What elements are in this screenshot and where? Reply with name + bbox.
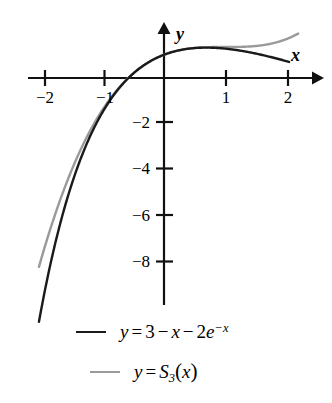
series-curve-approximation (39, 34, 298, 267)
legend-approx-fn: S (159, 361, 169, 382)
y-axis-label: y (176, 25, 184, 43)
legend-exact-op1: − (158, 321, 169, 342)
legend-label-exact: y=3−x−2e−x (120, 321, 229, 343)
y-tick-label--2: −2 (132, 114, 150, 131)
legend-exact-eq: = (131, 321, 142, 342)
x-axis (28, 72, 324, 85)
legend-exact-lhs: y (120, 321, 128, 342)
legend-exact-term2: x (171, 321, 179, 342)
legend-approx-lhs: y (134, 361, 142, 382)
x-tick-label-2: 2 (284, 89, 293, 106)
legend-swatch-approx (90, 371, 120, 373)
figure-container: −2 −1 1 2 −2 −4 −6 −8 x y y=3−x−2e−x y=S… (0, 0, 332, 403)
legend-approx-open-paren: ( (175, 359, 182, 383)
y-tick-label--6: −6 (132, 207, 150, 224)
legend-swatch-exact (76, 331, 106, 333)
x-axis-label: x (291, 46, 300, 64)
legend: y=3−x−2e−x y=S3(x) (0, 312, 332, 392)
legend-label-approx: y=S3(x) (134, 359, 198, 386)
legend-approx-eq: = (145, 361, 156, 382)
y-tick-label--8: −8 (132, 253, 150, 270)
legend-exact-coefficient: 2 (197, 321, 207, 342)
legend-approx-close-paren: ) (190, 359, 197, 383)
legend-exact-op2: − (183, 321, 194, 342)
x-tick-label--2: −2 (36, 89, 54, 106)
series-curves (39, 34, 298, 322)
x-tick-label--1: −1 (96, 89, 114, 106)
legend-item-exact: y=3−x−2e−x (0, 312, 332, 352)
legend-exact-exponent: −x (214, 321, 228, 335)
legend-exact-term1: 3 (145, 321, 155, 342)
legend-item-approx: y=S3(x) (0, 352, 332, 392)
x-tick-label-1: 1 (222, 89, 231, 106)
y-tick-label--4: −4 (132, 160, 150, 177)
